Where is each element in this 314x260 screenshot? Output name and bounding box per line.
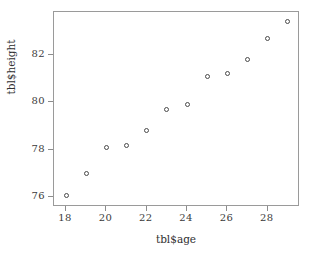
data-point-layer (54, 12, 298, 205)
y-tick-label: 76 (16, 190, 45, 201)
y-tick-mark (48, 101, 53, 102)
scatter-plot: 182022242628 76788082 tbl$age tbl$height (0, 0, 314, 260)
y-tick-label: 82 (16, 48, 45, 59)
x-tick-label: 22 (133, 212, 159, 223)
y-tick-mark (48, 149, 53, 150)
y-tick-mark (48, 54, 53, 55)
x-tick-mark (105, 206, 106, 211)
y-tick-label: 78 (16, 143, 45, 154)
plot-frame (53, 11, 299, 206)
x-tick-mark (226, 206, 227, 211)
data-point (265, 36, 270, 41)
data-point (245, 57, 250, 62)
data-point (164, 107, 169, 112)
data-point (124, 143, 129, 148)
data-point (285, 19, 290, 24)
y-tick-label: 80 (16, 95, 45, 106)
data-point (64, 193, 69, 198)
data-point (225, 71, 230, 76)
y-tick-mark (48, 196, 53, 197)
data-point (104, 145, 109, 150)
y-axis-title: tbl$height (5, 20, 17, 115)
x-tick-label: 20 (92, 212, 118, 223)
x-tick-label: 26 (213, 212, 239, 223)
x-tick-mark (146, 206, 147, 211)
x-tick-mark (267, 206, 268, 211)
data-point (144, 128, 149, 133)
x-tick-mark (65, 206, 66, 211)
data-point (84, 171, 89, 176)
data-point (185, 102, 190, 107)
data-point (205, 74, 210, 79)
x-tick-label: 18 (52, 212, 78, 223)
x-tick-label: 24 (173, 212, 199, 223)
x-tick-label: 28 (254, 212, 280, 223)
x-axis-title: tbl$age (53, 233, 299, 245)
x-tick-mark (186, 206, 187, 211)
